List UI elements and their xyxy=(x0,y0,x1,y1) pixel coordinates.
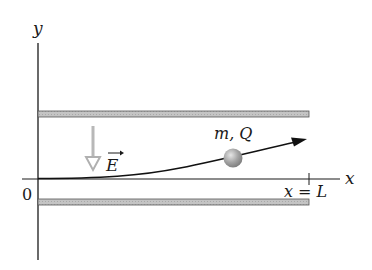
diagram-canvas: y x 0 x = L E m, Q xyxy=(0,0,372,270)
trajectory-arrowhead-icon xyxy=(291,138,307,147)
lower-plate xyxy=(38,199,309,205)
charged-particle xyxy=(224,149,243,168)
upper-plate xyxy=(38,111,309,117)
x-axis-label: x xyxy=(345,168,355,188)
svg-text:E: E xyxy=(105,155,119,175)
particle-label: m, Q xyxy=(214,124,252,143)
particle-trajectory xyxy=(38,142,296,179)
plate-end-label: x = L xyxy=(284,182,327,201)
electric-field-arrow-icon xyxy=(86,126,100,170)
origin-label: 0 xyxy=(22,185,32,204)
y-axis-label: y xyxy=(32,18,43,38)
field-label: E xyxy=(105,151,124,176)
